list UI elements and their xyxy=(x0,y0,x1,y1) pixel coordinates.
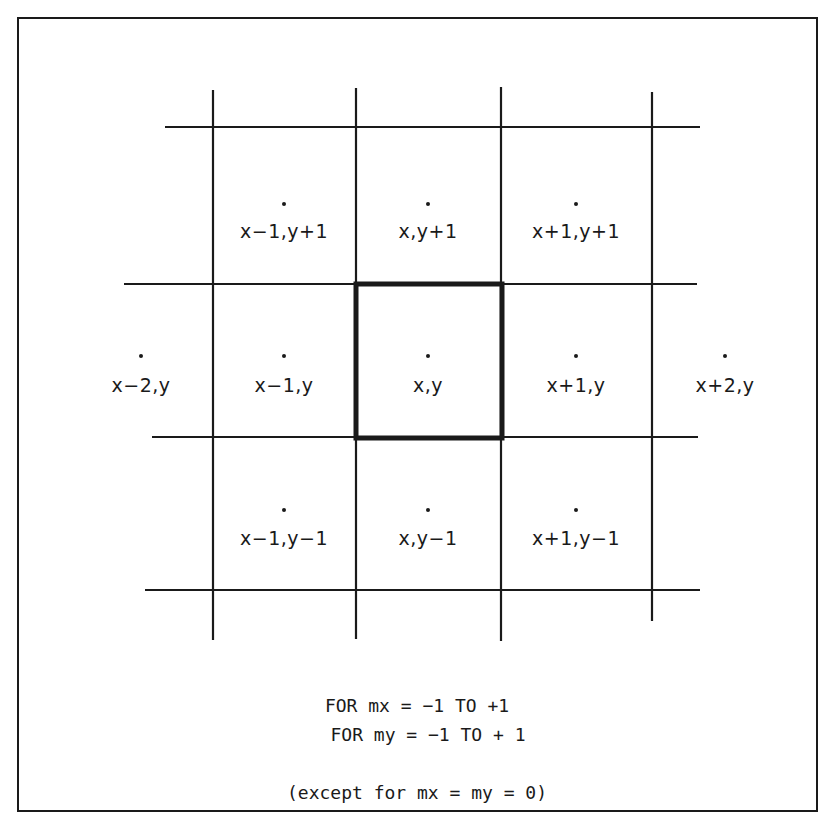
cell-x-ym1-label: x,y−1 xyxy=(398,529,457,548)
highlight-cell-outline xyxy=(356,284,502,438)
cell-xm1-y-label: x−1,y xyxy=(254,376,313,395)
cell-xm1-yp1-label: x−1,y+1 xyxy=(240,222,328,241)
cell-xm1-ym1-label: x−1,y−1 xyxy=(240,529,328,548)
cell-xp2-y-label: x+2,y xyxy=(695,376,754,395)
cell-xp1-yp1-dot xyxy=(574,202,578,206)
cell-x-y-dot xyxy=(426,354,430,358)
cell-xp2-y-dot xyxy=(723,354,727,358)
cell-xp1-y-dot xyxy=(574,354,578,358)
cell-xm1-ym1-dot xyxy=(282,508,286,512)
cell-xp1-y-label: x+1,y xyxy=(546,376,605,395)
cell-x-yp1-dot xyxy=(426,202,430,206)
grid-vertical-lines xyxy=(213,87,652,641)
cell-x-ym1-dot xyxy=(426,508,430,512)
grid-horizontal-lines xyxy=(124,127,700,590)
cell-xm2-y-label: x−2,y xyxy=(111,376,170,395)
caption-line-for-mx: FOR mx = −1 TO +1 xyxy=(325,697,509,715)
caption-line-except: (except for mx = my = 0) xyxy=(287,784,547,802)
caption-line-for-my: FOR my = −1 TO + 1 xyxy=(330,726,525,744)
cell-xm1-yp1-dot xyxy=(282,202,286,206)
cell-x-yp1-label: x,y+1 xyxy=(398,222,457,241)
cell-xp1-ym1-label: x+1,y−1 xyxy=(532,529,620,548)
cell-x-y-label: x,y xyxy=(413,376,443,395)
diagram-page: x−1,y+1x,y+1x+1,y+1x−2,yx−1,yx,yx+1,yx+2… xyxy=(0,0,834,831)
highlight-cell-rect xyxy=(356,284,502,438)
cell-xm2-y-dot xyxy=(139,354,143,358)
cell-xm1-y-dot xyxy=(282,354,286,358)
cell-xp1-yp1-label: x+1,y+1 xyxy=(532,222,620,241)
cell-xp1-ym1-dot xyxy=(574,508,578,512)
